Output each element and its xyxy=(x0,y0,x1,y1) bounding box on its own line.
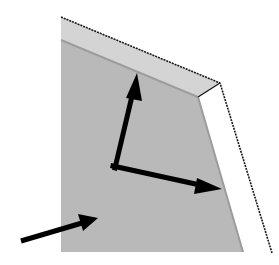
slab-diagram xyxy=(0,0,279,265)
